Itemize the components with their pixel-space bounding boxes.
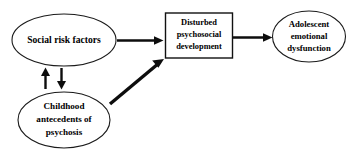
edge-development-to-dysfunction-arrowhead bbox=[263, 33, 273, 42]
flow-diagram: Social risk factors Disturbed psychosoci… bbox=[0, 0, 351, 155]
diagram-canvas: Social risk factors Disturbed psychosoci… bbox=[0, 0, 351, 155]
node-childhood-antecedents-of-psychosis-label-line-1: Childhood bbox=[44, 101, 85, 111]
node-adolescent-emotional-dysfunction-label-line-3: dysfunction bbox=[287, 43, 331, 53]
node-childhood-antecedents-of-psychosis-label-line-3: psychosis bbox=[46, 127, 83, 137]
node-childhood-antecedents-of-psychosis-label-line-2: antecedents of bbox=[36, 114, 92, 124]
edge-development-to-dysfunction bbox=[233, 33, 273, 42]
edge-social-risk-down-to-childhood bbox=[57, 68, 66, 90]
edge-childhood-to-development bbox=[110, 59, 164, 104]
node-social-risk-factors[interactable]: Social risk factors bbox=[12, 14, 116, 66]
node-childhood-antecedents-of-psychosis[interactable]: Childhood antecedents of psychosis bbox=[18, 92, 110, 148]
node-adolescent-emotional-dysfunction-label-line-2: emotional bbox=[291, 31, 328, 41]
edge-childhood-up-to-social-risk bbox=[41, 68, 50, 90]
node-disturbed-psychosocial-development-label-line-1: Disturbed bbox=[181, 18, 217, 27]
node-disturbed-psychosocial-development[interactable]: Disturbed psychosocial development bbox=[166, 13, 233, 58]
edge-childhood-up-to-social-risk-arrowhead bbox=[41, 68, 50, 77]
edge-childhood-to-development-line bbox=[110, 64, 159, 105]
node-disturbed-psychosocial-development-label-line-3: development bbox=[176, 42, 222, 51]
edge-social-risk-down-to-childhood-arrowhead bbox=[57, 81, 66, 90]
node-disturbed-psychosocial-development-label-line-2: psychosocial bbox=[177, 30, 222, 39]
edge-social-risk-to-development bbox=[117, 36, 164, 45]
node-social-risk-factors-label: Social risk factors bbox=[27, 34, 101, 45]
edge-social-risk-to-development-arrowhead bbox=[154, 36, 164, 45]
node-adolescent-emotional-dysfunction-label-line-1: Adolescent bbox=[289, 19, 330, 29]
node-adolescent-emotional-dysfunction[interactable]: Adolescent emotional dysfunction bbox=[273, 11, 346, 62]
